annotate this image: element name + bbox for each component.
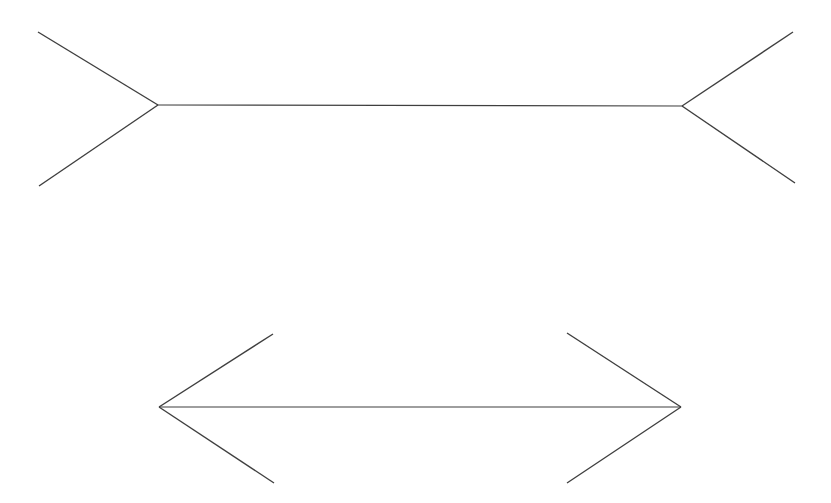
muller-lyer-illusion-canvas (0, 0, 831, 503)
canvas-background (0, 0, 831, 503)
